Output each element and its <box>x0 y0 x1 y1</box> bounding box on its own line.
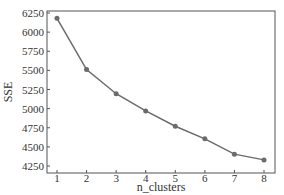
x-tick-label: 7 <box>232 172 238 184</box>
y-axis-label: SSE <box>1 82 15 103</box>
y-tick-label: 4750 <box>22 122 45 134</box>
data-point-marker <box>55 16 60 21</box>
y-tick-label: 6000 <box>22 26 45 38</box>
sse-line <box>57 18 264 160</box>
x-tick-label: 8 <box>261 172 267 184</box>
y-tick-label: 5000 <box>22 103 45 115</box>
x-tick-label: 1 <box>54 172 60 184</box>
y-tick-label: 5250 <box>22 84 45 96</box>
y-axis-ticks: 425045004750500052505500575060006250 <box>22 7 50 172</box>
data-point-marker <box>84 67 89 72</box>
elbow-chart: 425045004750500052505500575060006250 123… <box>0 0 284 195</box>
data-point-marker <box>114 91 119 96</box>
plot-frame <box>47 11 275 173</box>
data-point-marker <box>143 108 148 113</box>
x-tick-label: 6 <box>202 172 208 184</box>
data-point-marker <box>232 152 237 157</box>
y-tick-label: 4500 <box>22 141 45 153</box>
y-tick-label: 5500 <box>22 64 45 76</box>
y-tick-label: 4250 <box>22 160 45 172</box>
x-tick-label: 3 <box>113 172 119 184</box>
data-point-marker <box>202 136 207 141</box>
sse-markers <box>55 16 267 163</box>
x-axis-label: n_clusters <box>137 180 186 194</box>
x-tick-label: 2 <box>84 172 90 184</box>
y-tick-label: 5750 <box>22 45 45 57</box>
y-tick-label: 6250 <box>22 7 45 19</box>
data-point-marker <box>262 157 267 162</box>
data-point-marker <box>173 124 178 129</box>
